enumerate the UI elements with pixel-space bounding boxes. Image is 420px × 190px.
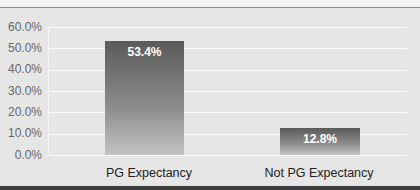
x-label-not-pg-expectancy: Not PG Expectancy: [259, 166, 379, 180]
bar-value-label: 12.8%: [280, 132, 360, 146]
y-tick-20: 20.0%: [2, 105, 42, 119]
plot-area: 53.4% 12.8%: [48, 27, 407, 155]
x-label-pg-expectancy: PG Expectancy: [94, 166, 204, 180]
gridline: [49, 48, 407, 49]
header-bar: [0, 0, 420, 8]
gridline-baseline: [49, 155, 407, 156]
gridline: [49, 91, 407, 92]
y-tick-30: 30.0%: [2, 84, 42, 98]
gridline: [49, 27, 407, 28]
bar-pg-expectancy: 53.4%: [105, 41, 184, 155]
bar-value-label: 53.4%: [105, 45, 184, 59]
bar-chart: 60.0% 50.0% 40.0% 30.0% 20.0% 10.0% 0.0%…: [0, 8, 420, 186]
y-tick-10: 10.0%: [2, 126, 42, 140]
gridline: [49, 70, 407, 71]
footer-bar: [0, 186, 420, 190]
y-tick-50: 50.0%: [2, 41, 42, 55]
y-tick-40: 40.0%: [2, 62, 42, 76]
y-tick-60: 60.0%: [2, 20, 42, 34]
bar-not-pg-expectancy: 12.8%: [280, 128, 360, 155]
gridline: [49, 112, 407, 113]
y-tick-0: 0.0%: [2, 148, 42, 162]
